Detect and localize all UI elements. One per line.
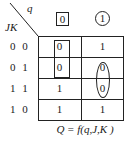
row-header-01: 0 1 bbox=[10, 61, 36, 73]
column-variable-label: q bbox=[27, 2, 33, 14]
cell-00-q1: 1 bbox=[81, 36, 124, 57]
column-header-1: 1 bbox=[95, 11, 110, 26]
zero-group-oval bbox=[96, 62, 110, 98]
row-header-10: 1 0 bbox=[10, 103, 36, 115]
cell-10-q1: 1 bbox=[81, 99, 124, 120]
row-variable-label: JK bbox=[5, 21, 17, 33]
function-caption: Q = f(q,J,K ) bbox=[42, 123, 128, 135]
zero-group-rectangle bbox=[54, 40, 70, 78]
cell-11-q0: 1 bbox=[38, 78, 81, 99]
row-header-11: 1 1 bbox=[10, 82, 36, 94]
row-header-00: 0 0 bbox=[10, 40, 36, 52]
cell-10-q0: 1 bbox=[38, 99, 81, 120]
column-header-0: 0 bbox=[56, 12, 69, 26]
